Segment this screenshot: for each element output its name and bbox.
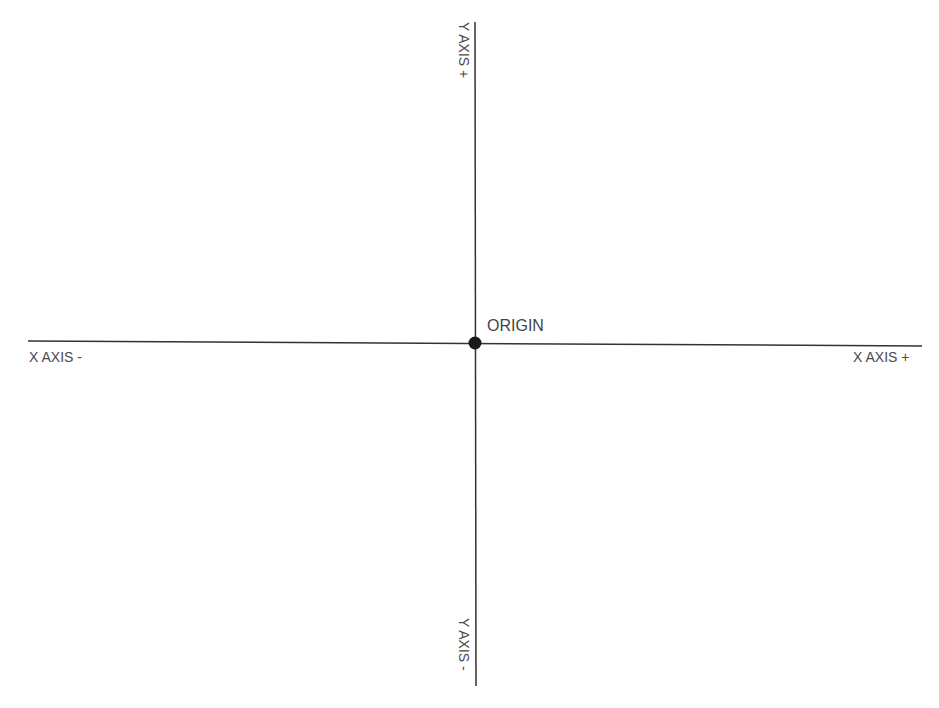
y-axis-negative-label: Y AXIS -: [457, 618, 471, 671]
axes-canvas: [0, 0, 939, 708]
y-axis-positive-label: Y AXIS +: [457, 22, 471, 78]
origin-label: ORIGIN: [487, 318, 544, 334]
y-axis-line: [475, 22, 476, 686]
origin-point: [469, 337, 482, 350]
x-axis-positive-label: X AXIS +: [853, 350, 909, 364]
x-axis-negative-label: X AXIS -: [29, 350, 82, 364]
